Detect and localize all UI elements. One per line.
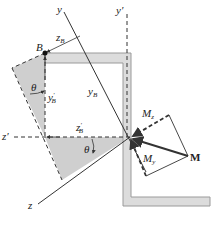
- yB-label: yB: [87, 85, 98, 99]
- zB-label: zB: [55, 31, 65, 45]
- point-B-label: B: [36, 41, 43, 53]
- yB-prime-label: y′B: [47, 91, 56, 105]
- zB-prime-label: z′B: [75, 121, 84, 135]
- angle-section-diagram: y y′ z′ z B zB yB y′B z′B θ θ Mz My M: [0, 0, 219, 228]
- z-prime-axis-label: z′: [1, 130, 9, 142]
- theta-label-bottom: θ: [84, 143, 90, 155]
- y-axis-label: y: [56, 3, 62, 15]
- y-prime-axis-label: y′: [115, 4, 124, 16]
- My-label: My: [142, 152, 156, 166]
- z-axis-label: z: [27, 199, 33, 211]
- M-resultant-vector: [133, 139, 188, 156]
- M-label: M: [190, 151, 201, 163]
- theta-label-top: θ: [31, 81, 37, 93]
- Mz-label: Mz: [141, 107, 154, 121]
- parallelogram-side-1: [169, 115, 188, 156]
- point-B: [43, 51, 48, 56]
